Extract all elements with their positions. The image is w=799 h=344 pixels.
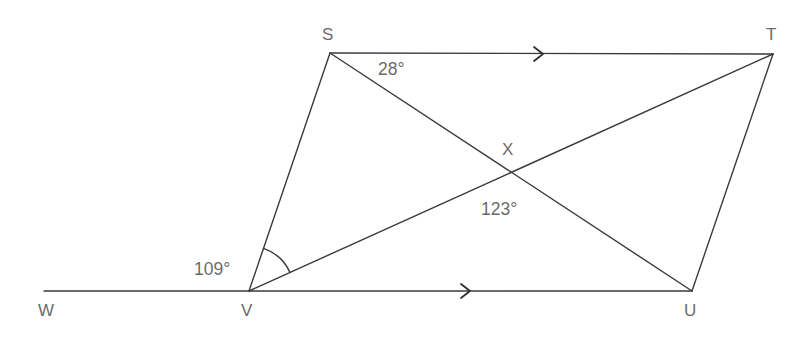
vertex-label-V: V <box>241 302 253 319</box>
vertex-label-S: S <box>322 26 334 43</box>
geometry-figure: S T U V W X 28° 123° 109° <box>0 0 799 344</box>
angle-label-123: 123° <box>481 201 517 219</box>
vertex-label-W: W <box>38 302 55 319</box>
vertex-label-U: U <box>684 302 697 319</box>
segment-S-V <box>249 53 330 291</box>
segment-V-T <box>249 54 773 291</box>
geometry-canvas <box>0 0 799 344</box>
segment-S-T <box>330 53 773 54</box>
angle-arc-at-V <box>264 248 291 272</box>
angle-label-28: 28° <box>378 61 404 79</box>
angle-label-109: 109° <box>194 261 230 279</box>
vertex-label-T: T <box>766 26 777 43</box>
vertex-label-X: X <box>502 141 514 158</box>
segment-T-U <box>692 54 773 291</box>
